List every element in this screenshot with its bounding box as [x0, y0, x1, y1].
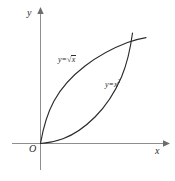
x-axis-arrowhead: [163, 140, 170, 146]
parabola-curve-label: y=x2: [105, 79, 120, 89]
origin-label: O: [29, 144, 36, 154]
square-label-prefix: y=: [105, 80, 114, 89]
y-axis-label: y: [27, 8, 31, 18]
plot-canvas: [0, 0, 175, 181]
sqrt-curve: [41, 38, 147, 144]
function-graph-figure: y x O y=√x y=x2: [0, 0, 175, 181]
sqrt-label-prefix: y=: [58, 55, 67, 64]
curves-group: [41, 33, 147, 144]
radical-symbol: √x: [67, 55, 76, 64]
x-axis-label: x: [155, 146, 159, 156]
square-label-exponent: 2: [118, 78, 121, 84]
radicand: x: [71, 55, 76, 64]
y-axis-arrowhead: [37, 7, 43, 14]
sqrt-curve-label: y=√x: [58, 55, 76, 64]
